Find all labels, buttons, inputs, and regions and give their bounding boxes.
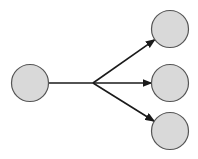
- fan-out-diagram: [0, 0, 198, 159]
- arrow-edge-target-top: [93, 40, 155, 83]
- target-top-node: [152, 11, 189, 48]
- edges: [49, 40, 155, 122]
- target-bottom-node: [152, 113, 189, 150]
- nodes: [12, 11, 189, 150]
- arrow-edge-target-bottom: [93, 83, 154, 121]
- source-node: [12, 65, 49, 102]
- target-middle-node: [152, 65, 189, 102]
